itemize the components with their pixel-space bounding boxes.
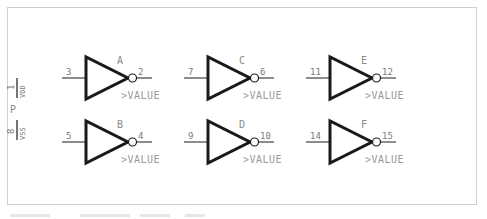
inverter-gate-a[interactable]: 32A>VALUE: [62, 55, 160, 101]
schematic-canvas: 1 VDD P 8 VSS 32A>VALUE54B>VALUE76C>VALU…: [0, 0, 487, 219]
power-part-label: P: [10, 104, 16, 115]
inversion-bubble-icon: [373, 74, 381, 82]
inversion-bubble-icon: [251, 138, 259, 146]
gate-value-label: >VALUE: [121, 90, 160, 101]
inverter-gate-d[interactable]: 910D>VALUE: [184, 119, 282, 165]
vss-pin-number: 8: [6, 129, 16, 134]
input-pin-number: 14: [310, 131, 321, 141]
inversion-bubble-icon: [129, 74, 137, 82]
input-pin-number: 3: [66, 67, 71, 77]
output-pin-number: 2: [138, 67, 143, 77]
gate-ref-label: D: [239, 119, 245, 130]
gate-value-label: >VALUE: [365, 154, 404, 165]
gate-ref-label: C: [239, 55, 245, 66]
gate-value-label: >VALUE: [365, 90, 404, 101]
gate-value-label: >VALUE: [243, 90, 282, 101]
output-pin-number: 6: [260, 67, 265, 77]
inversion-bubble-icon: [373, 138, 381, 146]
output-pin-number: 15: [382, 131, 393, 141]
gate-ref-label: B: [117, 119, 123, 130]
input-pin-number: 7: [188, 67, 193, 77]
input-pin-number: 5: [66, 131, 71, 141]
inverter-gate-c[interactable]: 76C>VALUE: [184, 55, 282, 101]
gate-value-label: >VALUE: [121, 154, 160, 165]
inverter-gate-e[interactable]: 1112E>VALUE: [306, 55, 404, 101]
vss-pin-name: VSS: [19, 127, 27, 140]
vdd-pin-name: VDD: [19, 85, 27, 98]
gate-ref-label: A: [117, 55, 123, 66]
input-pin-number: 11: [310, 67, 321, 77]
output-pin-number: 4: [138, 131, 143, 141]
inverter-gate-b[interactable]: 54B>VALUE: [62, 119, 160, 165]
gate-ref-label: F: [361, 119, 367, 130]
output-pin-number: 12: [382, 67, 393, 77]
input-pin-number: 9: [188, 131, 193, 141]
gate-ref-label: E: [361, 55, 367, 66]
power-pin-group: 1 VDD P 8 VSS: [6, 78, 27, 140]
inversion-bubble-icon: [251, 74, 259, 82]
inverter-gate-f[interactable]: 1415F>VALUE: [306, 119, 404, 165]
gate-value-label: >VALUE: [243, 154, 282, 165]
output-pin-number: 10: [260, 131, 271, 141]
inversion-bubble-icon: [129, 138, 137, 146]
status-strip: [10, 212, 250, 219]
vdd-pin-number: 1: [6, 85, 16, 90]
